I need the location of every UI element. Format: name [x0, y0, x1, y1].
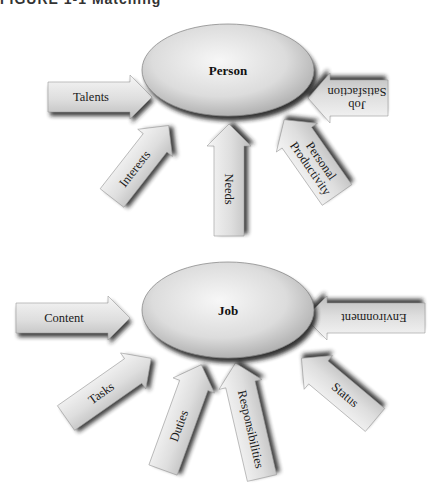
arrow-status: Status — [286, 337, 392, 437]
arrow-label: Job — [348, 98, 365, 112]
job-diagram: ContentTasksDutiesResponsibilitiesStatus… — [16, 262, 425, 483]
center-label: Person — [209, 63, 248, 78]
arrow-personal-productivity: PersonalProductivity — [263, 101, 361, 209]
arrow-interests: Interests — [95, 110, 191, 214]
arrow-label: Satisfaction — [327, 85, 387, 99]
arrow-needs: Needs — [207, 122, 255, 236]
arrow-label: Talents — [73, 90, 109, 104]
arrow-environment: Environment — [303, 292, 425, 340]
arrow-label: Content — [44, 311, 84, 325]
arrow-content: Content — [16, 296, 132, 344]
arrow-talents: Talents — [48, 75, 154, 123]
person-diagram: TalentsInterestsNeedsPersonalProductivit… — [48, 24, 388, 236]
arrow-label: Environment — [341, 311, 407, 325]
arrow-job-satisfaction: JobSatisfaction — [306, 69, 388, 123]
arrow-tasks: Tasks — [53, 339, 167, 439]
center-label: Job — [218, 303, 238, 318]
arrow-duties: Duties — [142, 355, 226, 479]
arrow-responsibilities: Responsibilities — [214, 355, 288, 483]
arrow-label: Needs — [222, 173, 236, 204]
diagram-canvas: TalentsInterestsNeedsPersonalProductivit… — [0, 0, 441, 500]
